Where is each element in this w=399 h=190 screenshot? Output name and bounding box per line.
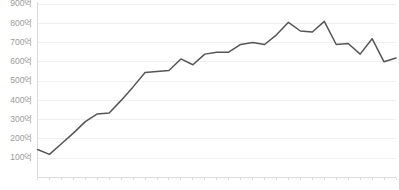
y-axis-tick-label: 500억 [10,75,32,85]
y-axis-tick-label: 700억 [10,37,32,47]
series-line-1 [38,21,397,154]
y-axis-tick-label: 600억 [10,56,32,66]
gridlines [38,4,397,158]
y-axis-tick-labels: 100억200억300억400억500억600억700억800억900억 [10,0,32,162]
chart-axes [38,2,397,178]
y-axis-tick-label: 200억 [10,133,32,143]
y-axis-tick-label: 900억 [10,0,32,8]
chart-canvas: 100억200억300억400억500억600억700억800억900억 [0,0,399,190]
data-series [38,21,397,154]
line-chart-container: 100억200억300억400억500억600억700억800억900억 [0,0,399,190]
y-axis-tick-label: 400억 [10,95,32,105]
y-axis-tick-label: 300억 [10,114,32,124]
y-axis-tick-label: 100억 [10,152,32,162]
y-axis-tick-label: 800억 [10,18,32,28]
